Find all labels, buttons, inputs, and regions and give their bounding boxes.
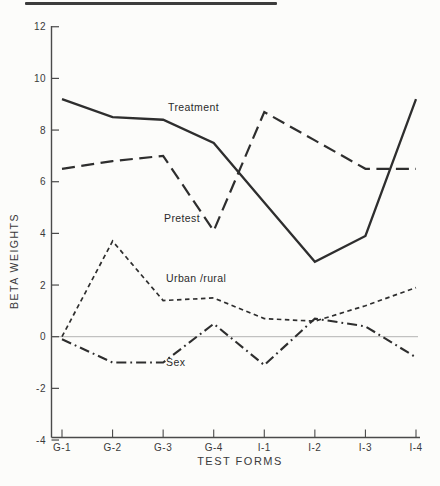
- y-tick-label: 6: [40, 176, 46, 187]
- series-label-treatment: Treatment: [168, 101, 219, 113]
- x-tick-label: I-1: [258, 442, 271, 453]
- x-tick-label: I-4: [409, 442, 422, 453]
- chart-svg: 121086420-2-4G-1G-2G-3G-4I-1I-2I-3I-4: [0, 0, 440, 486]
- figure-page: 121086420-2-4G-1G-2G-3G-4I-1I-2I-3I-4 BE…: [0, 0, 440, 486]
- series-label-urban-rural: Urban /rural: [166, 272, 226, 284]
- series-label-sex: Sex: [166, 356, 185, 368]
- x-tick-label: G-4: [205, 442, 223, 453]
- x-tick-label: I-2: [308, 442, 321, 453]
- x-tick-label: G-1: [53, 442, 71, 453]
- series-label-pretest: Pretest: [164, 212, 200, 224]
- y-tick-label: 12: [34, 21, 46, 32]
- series-line-urban-rural: [62, 241, 416, 337]
- series-line-pretest: [62, 112, 416, 231]
- y-tick-label: -4: [36, 435, 46, 446]
- y-tick-label: 0: [40, 331, 46, 342]
- x-tick-label: G-2: [103, 442, 121, 453]
- y-axis-title: BETA WEIGHTS: [8, 201, 20, 321]
- y-tick-label: 10: [34, 73, 46, 84]
- series-line-sex: [62, 319, 416, 365]
- x-tick-label: I-3: [359, 442, 372, 453]
- y-tick-label: 8: [40, 125, 46, 136]
- series-line-treatment: [62, 99, 416, 262]
- x-tick-label: G-3: [154, 442, 172, 453]
- y-tick-label: 4: [40, 228, 46, 239]
- y-tick-label: -2: [36, 383, 46, 394]
- y-tick-label: 2: [40, 280, 46, 291]
- x-axis-title: TEST FORMS: [160, 455, 320, 467]
